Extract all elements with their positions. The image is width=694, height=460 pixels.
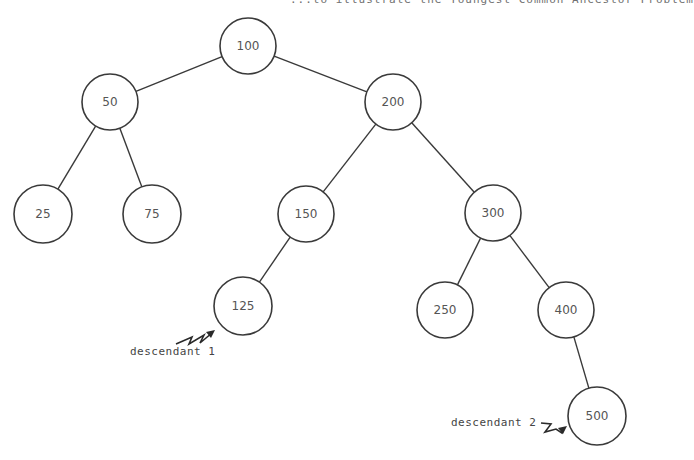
tree-node-75: 75 [123, 185, 181, 243]
edge-150-125 [259, 237, 290, 282]
node-value: 300 [482, 206, 505, 220]
node-value: 250 [434, 303, 457, 317]
tree-node-100: 100 [220, 18, 276, 74]
edge-50-25 [58, 126, 96, 189]
edge-200-300 [412, 123, 475, 192]
edge-100-200 [274, 56, 367, 92]
edge-50-75 [120, 128, 142, 187]
node-value: 150 [295, 207, 318, 221]
tree-node-25: 25 [14, 185, 72, 243]
tree-node-500: 500 [568, 387, 626, 445]
edge-100-50 [136, 57, 222, 92]
node-value: 125 [232, 299, 255, 313]
tree-node-250: 250 [417, 282, 473, 338]
tree-node-300: 300 [465, 185, 521, 241]
tree-nodes: 100502002575150300125250400500 [14, 18, 626, 445]
node-value: 400 [555, 303, 578, 317]
edge-200-150 [323, 124, 376, 192]
edge-300-400 [510, 235, 549, 287]
descendant-1-label: descendant 1 [130, 345, 215, 358]
descendant-2-label: descendant 2 [451, 416, 536, 429]
node-value: 100 [237, 39, 260, 53]
tree-node-200: 200 [365, 74, 421, 130]
tree-node-125: 125 [214, 277, 272, 335]
tree-node-400: 400 [538, 282, 594, 338]
tree-node-150: 150 [278, 186, 334, 242]
node-value: 50 [102, 95, 117, 109]
descendant-1-arrow-icon [176, 330, 215, 344]
edge-400-500 [574, 337, 589, 388]
node-value: 200 [382, 95, 405, 109]
node-value: 25 [35, 207, 50, 221]
descendant-2-arrow-icon [541, 423, 567, 434]
node-value: 75 [144, 207, 159, 221]
tree-node-50: 50 [82, 74, 138, 130]
edge-300-250 [457, 238, 480, 285]
node-value: 500 [586, 409, 609, 423]
